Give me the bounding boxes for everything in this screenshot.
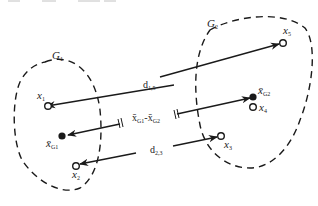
edge-d23-label: d2,3 — [150, 144, 163, 156]
point-xg2 — [249, 93, 256, 100]
point-xg1 — [58, 132, 65, 139]
group-g1-label: G1 — [52, 49, 63, 62]
point-x4-label: x4 — [258, 101, 267, 114]
point-x3-label: x3 — [223, 138, 232, 151]
point-x4 — [250, 104, 257, 111]
group-g2-label: G2 — [207, 17, 218, 30]
edge-d23-left — [80, 153, 136, 164]
point-x5 — [280, 40, 287, 47]
point-x5-label: x5 — [282, 24, 291, 37]
point-x1-label: x1 — [36, 89, 45, 102]
edge-centroid-label: x̄G1-x̄G2 — [132, 112, 160, 124]
group-g2-boundary — [196, 17, 313, 168]
edge-centroid-left — [68, 124, 120, 135]
point-x1 — [45, 103, 52, 110]
centroid-edge-break-left — [118, 118, 123, 128]
cluster-distance-diagram: G1 G2 d1,5 x̄G1-x̄G2 d2,3 x1 x̄G1 x — [0, 0, 318, 206]
edge-centroid-right — [177, 98, 250, 114]
edge-d15-label: d1,5 — [143, 79, 156, 91]
edge-d23-right — [173, 137, 217, 146]
point-xg1-label: x̄G1 — [45, 137, 58, 150]
point-x2-label: x2 — [71, 168, 80, 181]
edge-d15-right — [160, 44, 279, 77]
group-g1-boundary — [14, 59, 101, 190]
point-xg2-label: x̄G2 — [257, 84, 270, 97]
